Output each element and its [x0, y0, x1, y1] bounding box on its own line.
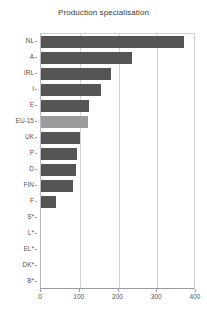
bar-row [41, 162, 194, 178]
y-label-p: P [0, 145, 37, 161]
bar-e [41, 100, 89, 112]
bar-row [41, 98, 194, 114]
y-label-fin: FIN [0, 177, 37, 193]
x-label-0: 0 [38, 293, 42, 300]
bar-row [41, 34, 194, 50]
y-tick [35, 185, 37, 186]
y-tick [35, 73, 37, 74]
bar-f [41, 196, 56, 208]
x-tick-200 [118, 289, 119, 292]
bar-d [41, 164, 76, 176]
y-tick [35, 233, 37, 234]
x-label-100: 100 [73, 293, 84, 300]
y-label-uk: UK [0, 129, 37, 145]
y-label-d: D [0, 161, 37, 177]
y-tick [35, 265, 37, 266]
y-label-f: F [0, 193, 37, 209]
bar-uk [41, 132, 80, 144]
y-tick [35, 249, 37, 250]
bar-row [41, 66, 194, 82]
y-tick [35, 217, 37, 218]
y-tick [35, 201, 37, 202]
bar-a [41, 52, 132, 64]
x-tick-0 [40, 289, 41, 292]
bar-row [41, 194, 194, 210]
bar-irl [41, 68, 111, 80]
y-label-eu-15: EU-15 [0, 113, 37, 129]
chart-title: Production specialisation [0, 8, 207, 17]
bar-row [41, 114, 194, 130]
bar-p [41, 148, 77, 160]
x-label-200: 200 [112, 293, 123, 300]
y-axis-labels: NLAIRLIEEU-15UKPDFINFS*L*EL*DK*B* [0, 33, 37, 289]
y-label-i: I [0, 81, 37, 97]
y-label-dkstar: DK* [0, 257, 37, 273]
x-tick-100 [79, 289, 80, 292]
x-tick-300 [156, 289, 157, 292]
bar-i [41, 84, 101, 96]
x-tick-400 [195, 289, 196, 292]
y-tick [35, 41, 37, 42]
bar-row [41, 130, 194, 146]
plot-area [40, 33, 195, 289]
bar-row [41, 82, 194, 98]
y-label-lstar: L* [0, 225, 37, 241]
y-tick [35, 153, 37, 154]
bar-row [41, 50, 194, 66]
chart-figure: Production specialisation NLAIRLIEEU-15U… [0, 0, 207, 322]
y-label-e: E [0, 97, 37, 113]
x-label-300: 300 [151, 293, 162, 300]
y-label-irl: IRL [0, 65, 37, 81]
y-label-sstar: S* [0, 209, 37, 225]
bar-row [41, 258, 194, 274]
y-tick [35, 105, 37, 106]
y-tick [35, 137, 37, 138]
y-tick [35, 281, 37, 282]
bars-layer [41, 34, 194, 288]
bar-row [41, 178, 194, 194]
x-label-400: 400 [190, 293, 201, 300]
bar-row [41, 274, 194, 290]
x-axis-labels: 0100200300400 [0, 293, 207, 305]
y-label-bstar: B* [0, 273, 37, 289]
bar-row [41, 146, 194, 162]
bar-fin [41, 180, 73, 192]
y-tick [35, 169, 37, 170]
y-tick [35, 121, 37, 122]
y-label-elstar: EL* [0, 241, 37, 257]
y-label-nl: NL [0, 33, 37, 49]
bar-eu-15 [41, 116, 88, 128]
bar-row [41, 210, 194, 226]
y-tick [35, 57, 37, 58]
bar-row [41, 242, 194, 258]
y-label-a: A [0, 49, 37, 65]
bar-row [41, 226, 194, 242]
y-tick [35, 89, 37, 90]
bar-nl [41, 36, 184, 48]
